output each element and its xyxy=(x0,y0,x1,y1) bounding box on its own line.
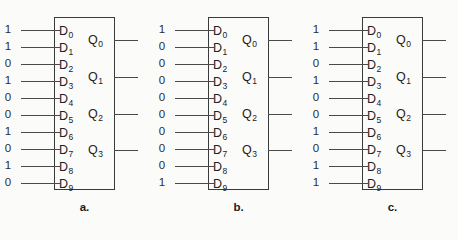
output-pin-label: Q2 xyxy=(88,108,102,121)
input-wire xyxy=(329,64,368,65)
input-wire xyxy=(329,166,368,167)
input-row: 1 xyxy=(0,22,60,38)
input-row: 1 xyxy=(308,158,368,174)
input-row: 0 xyxy=(0,107,60,123)
panel-caption: a. xyxy=(54,201,115,213)
output-wire xyxy=(114,77,138,78)
input-bit-value: 0 xyxy=(154,160,170,172)
input-bit-value: 1 xyxy=(308,75,324,87)
input-bit-value: 0 xyxy=(0,109,16,121)
input-row: 1 xyxy=(154,175,214,191)
input-wire xyxy=(21,183,60,184)
input-pin-subscript: 0 xyxy=(377,30,382,40)
input-bit-value: 1 xyxy=(0,75,16,87)
output-pin-subscript: 0 xyxy=(252,39,257,49)
input-wire xyxy=(329,115,368,116)
input-pin-label: D3 xyxy=(367,76,381,89)
input-row: 0 xyxy=(308,56,368,72)
input-wire xyxy=(21,30,60,31)
input-row: 1 xyxy=(308,39,368,55)
input-bit-value: 1 xyxy=(0,126,16,138)
output-wire xyxy=(268,150,292,151)
input-pin-subscript: 7 xyxy=(223,149,228,159)
input-pin-subscript: 3 xyxy=(223,81,228,91)
input-row: 0 xyxy=(154,158,214,174)
input-bit-value: 0 xyxy=(0,143,16,155)
input-row: 0 xyxy=(154,56,214,72)
input-pin-label: D2 xyxy=(213,59,227,72)
input-row: 0 xyxy=(154,73,214,89)
input-pin-subscript: 7 xyxy=(377,149,382,159)
input-pin-subscript: 1 xyxy=(69,47,74,57)
input-row: 0 xyxy=(0,141,60,157)
input-wire xyxy=(21,149,60,150)
input-wire xyxy=(175,115,214,116)
input-pin-subscript: 5 xyxy=(377,115,382,125)
input-wire xyxy=(21,98,60,99)
input-pin-label: D1 xyxy=(213,42,227,55)
output-wire xyxy=(268,77,292,78)
input-row: 1 xyxy=(0,124,60,140)
input-pin-label: D9 xyxy=(59,178,73,191)
input-pin-subscript: 3 xyxy=(69,81,74,91)
input-pin-label: D7 xyxy=(367,144,381,157)
input-pin-label: D5 xyxy=(59,110,73,123)
input-bit-value: 0 xyxy=(308,109,324,121)
input-pin-subscript: 9 xyxy=(69,183,74,193)
input-row: 1 xyxy=(0,158,60,174)
input-bit-value: 0 xyxy=(0,58,16,70)
input-pin-subscript: 9 xyxy=(223,183,228,193)
input-wire xyxy=(175,166,214,167)
input-row: 0 xyxy=(154,107,214,123)
input-pin-subscript: 6 xyxy=(69,132,74,142)
input-wire xyxy=(329,30,368,31)
input-pin-subscript: 2 xyxy=(377,64,382,74)
input-pin-label: D6 xyxy=(367,127,381,140)
input-pin-label: D8 xyxy=(213,161,227,174)
output-pin-label: Q1 xyxy=(396,71,410,84)
input-wire xyxy=(329,47,368,48)
input-pin-label: D8 xyxy=(367,161,381,174)
output-pin-label: Q0 xyxy=(396,34,410,47)
output-pin-label: Q0 xyxy=(242,34,256,47)
input-bit-value: 1 xyxy=(154,177,170,189)
input-pin-label: D7 xyxy=(213,144,227,157)
input-pin-label: D2 xyxy=(367,59,381,72)
input-wire xyxy=(175,30,214,31)
input-bit-value: 1 xyxy=(308,177,324,189)
output-pin-label: Q3 xyxy=(88,144,102,157)
output-pin-subscript: 0 xyxy=(406,39,411,49)
input-wire xyxy=(175,183,214,184)
output-pin-subscript: 2 xyxy=(252,113,257,123)
input-pin-subscript: 8 xyxy=(69,166,74,176)
input-bit-value: 0 xyxy=(0,177,16,189)
output-pin-subscript: 1 xyxy=(98,76,103,86)
input-bit-value: 0 xyxy=(308,92,324,104)
input-pin-subscript: 8 xyxy=(223,166,228,176)
input-pin-subscript: 4 xyxy=(377,98,382,108)
input-wire xyxy=(21,115,60,116)
input-pin-label: D7 xyxy=(59,144,73,157)
output-pin-subscript: 2 xyxy=(406,113,411,123)
output-wire xyxy=(114,114,138,115)
input-bit-value: 0 xyxy=(154,126,170,138)
output-pin-label: Q2 xyxy=(242,108,256,121)
input-row: 1 xyxy=(308,175,368,191)
input-bit-value: 1 xyxy=(0,160,16,172)
input-pin-label: D1 xyxy=(59,42,73,55)
input-wire xyxy=(175,98,214,99)
output-pin-subscript: 1 xyxy=(406,76,411,86)
input-row: 0 xyxy=(308,141,368,157)
input-pin-label: D4 xyxy=(213,93,227,106)
input-wire xyxy=(21,47,60,48)
input-wire xyxy=(21,64,60,65)
input-pin-subscript: 5 xyxy=(69,115,74,125)
output-pin-subscript: 3 xyxy=(252,149,257,159)
input-pin-label: D5 xyxy=(367,110,381,123)
input-pin-label: D5 xyxy=(213,110,227,123)
input-bit-value: 1 xyxy=(308,41,324,53)
output-pin-label: Q0 xyxy=(88,34,102,47)
input-wire xyxy=(175,132,214,133)
input-row: 0 xyxy=(154,124,214,140)
input-row: 1 xyxy=(154,22,214,38)
